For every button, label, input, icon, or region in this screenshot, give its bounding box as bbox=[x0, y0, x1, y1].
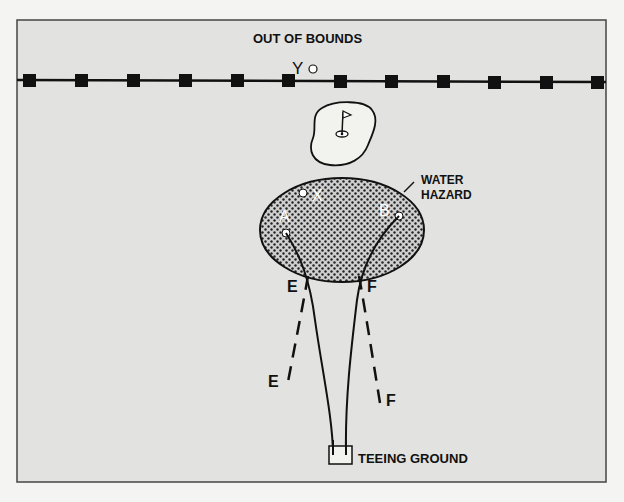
teeing-ground-label: TEEING GROUND bbox=[358, 451, 468, 466]
point-a-label: A bbox=[279, 208, 290, 225]
point-x-marker bbox=[299, 189, 307, 197]
point-b-label: B bbox=[379, 202, 390, 219]
point-e-upper-label: E bbox=[287, 278, 298, 295]
point-f-lower-label: F bbox=[386, 392, 396, 409]
water-hazard-label-line1: WATER bbox=[421, 173, 464, 187]
point-x-label: X bbox=[312, 187, 323, 204]
out-of-bounds-label: OUT OF BOUNDS bbox=[253, 31, 362, 46]
point-y-marker bbox=[309, 65, 317, 73]
point-f-upper-label: F bbox=[367, 278, 377, 295]
point-y-label: Y bbox=[292, 59, 303, 78]
golf-rules-diagram: OUT OF BOUNDS Y WATER HAZARD X A B bbox=[0, 0, 624, 502]
point-e-lower-label: E bbox=[268, 373, 279, 390]
water-hazard-label-line2: HAZARD bbox=[421, 188, 472, 202]
